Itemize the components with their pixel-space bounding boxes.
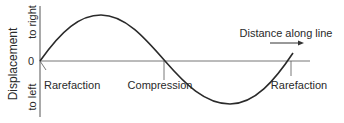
distance-arrow-icon xyxy=(298,41,304,46)
y-axis-bottom-label: to left xyxy=(26,84,38,111)
x-axis-direction-label: Distance along line xyxy=(240,27,333,39)
annotation-rarefaction-left: Rarefaction xyxy=(44,79,100,91)
annotation-compression: Compression xyxy=(128,79,193,91)
rarefaction-leader-left xyxy=(40,61,46,70)
annotation-rarefaction-right: Rarefaction xyxy=(271,79,327,91)
wave-diagram: Displacement to right to left 0 Distance… xyxy=(0,0,344,123)
y-axis-title: Displacement xyxy=(6,27,20,100)
y-axis-zero-label: 0 xyxy=(28,55,34,67)
y-axis-top-label: to right xyxy=(26,5,38,39)
